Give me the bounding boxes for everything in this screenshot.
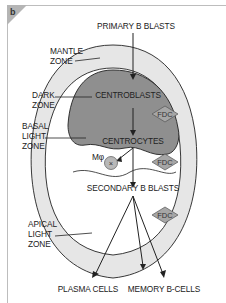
centroblasts-label: CENTROBLASTS	[95, 90, 161, 100]
centrocytes-label: CENTROCYTES	[102, 136, 164, 146]
apical-light-zone-label-2: LIGHT	[28, 229, 52, 239]
basal-light-zone-label-2: LIGHT	[22, 131, 46, 141]
germinal-centre-diagram: b PRIMARY B BLASTS MANTLE ZONE DARK ZONE…	[0, 0, 226, 303]
svg-text:FDC: FDC	[157, 158, 173, 167]
primary-b-blasts-label: PRIMARY B BLASTS	[97, 21, 175, 31]
mantle-zone-label-2: ZONE	[50, 56, 73, 66]
dark-zone-label-2: ZONE	[32, 100, 55, 110]
basal-light-zone-label-3: ZONE	[22, 141, 45, 151]
basal-light-zone-label-1: BASAL	[22, 121, 49, 131]
mantle-zone-label-1: MANTLE	[50, 46, 84, 56]
plasma-cells-label: PLASMA CELLS	[58, 284, 119, 294]
panel-label: b	[10, 7, 16, 17]
macrophage-x-icon: ×	[109, 159, 113, 168]
memory-b-cells-label: MEMORY B-CELLS	[128, 284, 201, 294]
macrophage-label: Mφ	[92, 152, 105, 162]
svg-text:FDC: FDC	[157, 110, 173, 119]
dark-zone-label-1: DARK	[32, 90, 55, 100]
apical-light-zone-label-1: APICAL	[28, 219, 57, 229]
apical-light-zone-label-3: ZONE	[28, 239, 51, 249]
svg-text:FDC: FDC	[157, 211, 173, 220]
secondary-b-blasts-label: SECONDARY B BLASTS	[87, 183, 180, 193]
